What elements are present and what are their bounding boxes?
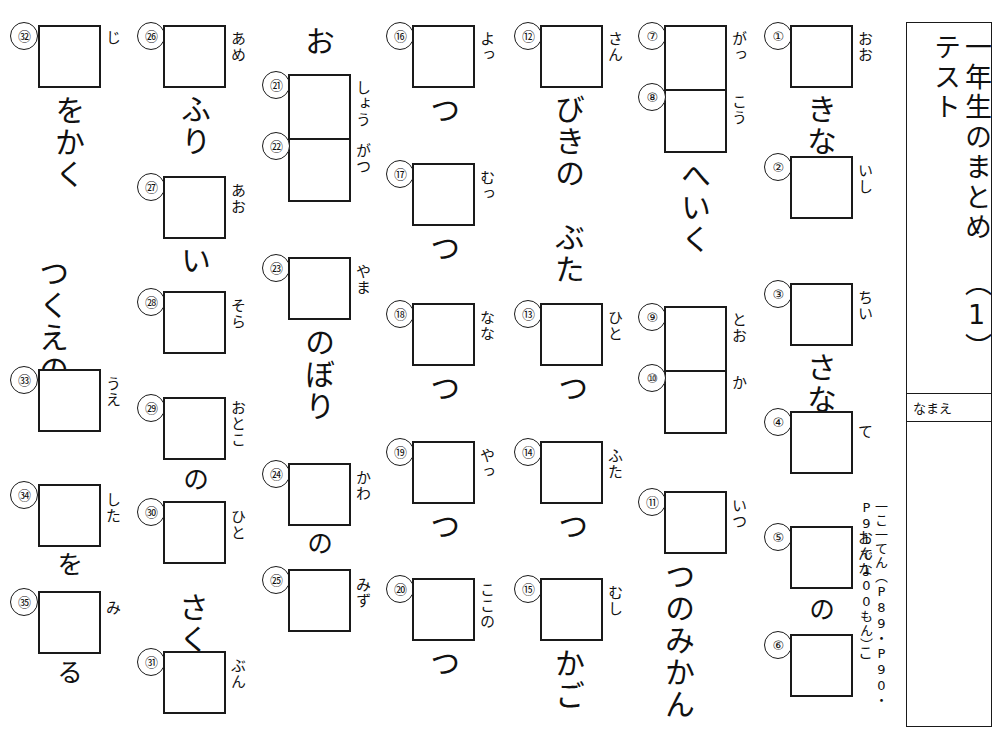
furigana-14: ふた	[606, 448, 622, 490]
question-number-11: ⑪	[638, 488, 666, 516]
answer-box-16[interactable]	[412, 25, 475, 88]
okurigana-19: つ	[425, 511, 459, 547]
okurigana-5: の	[804, 596, 833, 628]
answer-box-18[interactable]	[412, 303, 475, 366]
answer-box-19[interactable]	[412, 441, 475, 504]
answer-box-17[interactable]	[412, 163, 475, 226]
furigana-30: ひと	[229, 509, 245, 551]
answer-box-28[interactable]	[163, 291, 226, 354]
okurigana-13: つ	[553, 373, 587, 409]
question-number-21: ㉑	[262, 71, 290, 99]
title-number: （1）	[907, 269, 991, 363]
okurigana-32: をかく	[50, 95, 84, 215]
answer-box-33[interactable]	[38, 369, 101, 432]
furigana-25: みず	[354, 577, 370, 619]
okurigana-34: を	[52, 551, 81, 583]
furigana-31: ぶん	[229, 658, 245, 700]
furigana-34: した	[104, 492, 120, 534]
answer-box-12[interactable]	[540, 25, 603, 88]
okurigana-35: る	[52, 659, 81, 693]
furigana-9: とお	[730, 312, 746, 354]
title-main: 一年生のまとめテスト	[907, 33, 991, 269]
answer-box-9-10[interactable]	[664, 306, 727, 434]
answer-box-11[interactable]	[664, 491, 727, 554]
question-number-29: ㉙	[137, 394, 165, 422]
answer-box-1[interactable]	[790, 25, 853, 88]
answer-box-30[interactable]	[163, 501, 226, 564]
okurigana-29: の	[178, 466, 207, 498]
answer-box-31[interactable]	[163, 651, 226, 714]
answer-box-4[interactable]	[790, 411, 853, 474]
question-number-8: ⑧	[638, 83, 666, 111]
question-number-26: ㉖	[137, 22, 165, 50]
answer-box-25[interactable]	[288, 569, 351, 632]
question-number-30: ㉚	[137, 498, 165, 526]
furigana-24: かわ	[354, 470, 370, 512]
furigana-19: やっ	[478, 448, 494, 488]
okurigana-18: つ	[425, 373, 459, 409]
okurigana-16: つ	[425, 95, 459, 131]
okurigana-23: のぼり	[300, 327, 334, 431]
question-number-20: ⑳	[386, 575, 414, 603]
box-divider	[290, 138, 349, 140]
answer-box-13[interactable]	[540, 303, 603, 366]
question-number-19: ⑲	[386, 438, 414, 466]
answer-box-26[interactable]	[163, 25, 226, 88]
answer-box-21-22[interactable]	[288, 74, 351, 202]
question-number-34: ㉞	[10, 481, 38, 509]
okurigana-27: い	[176, 245, 210, 281]
okurigana-21-prefix: お	[300, 26, 334, 62]
answer-box-15[interactable]	[540, 578, 603, 641]
question-number-13: ⑬	[514, 300, 542, 328]
question-number-17: ⑰	[386, 160, 414, 188]
okurigana-26: ふり	[176, 94, 210, 164]
answer-box-32[interactable]	[38, 25, 101, 88]
answer-box-34[interactable]	[38, 484, 101, 547]
question-number-27: ㉗	[137, 173, 165, 201]
answer-box-3[interactable]	[790, 283, 853, 346]
furigana-32: じ	[104, 30, 120, 70]
answer-box-14[interactable]	[540, 441, 603, 504]
question-number-23: ㉓	[262, 254, 290, 282]
question-number-5: ⑤	[764, 523, 792, 551]
okurigana-14: つ	[553, 511, 587, 547]
name-rule-bottom	[907, 421, 991, 422]
furigana-21: しょう	[354, 80, 370, 136]
answer-box-29[interactable]	[163, 397, 226, 460]
answer-box-7-8[interactable]	[664, 25, 727, 153]
question-number-4: ④	[764, 408, 792, 436]
furigana-13: ひと	[606, 310, 622, 352]
answer-box-24[interactable]	[288, 463, 351, 526]
furigana-33: うえ	[104, 376, 120, 418]
question-number-3: ③	[764, 280, 792, 308]
answer-box-27[interactable]	[163, 176, 226, 239]
furigana-29: おとこ	[229, 400, 245, 458]
name-rule-top	[907, 393, 991, 394]
furigana-7: がっ	[730, 31, 746, 73]
furigana-22: がつ	[354, 143, 370, 185]
question-number-9: ⑨	[638, 303, 666, 331]
answer-box-5[interactable]	[790, 526, 853, 589]
answer-box-6[interactable]	[790, 634, 853, 697]
okurigana-17: つ	[425, 233, 459, 269]
score-note: 一こ一てん（P89・P90・P91で100もん）	[858, 500, 888, 715]
furigana-23: やま	[354, 264, 370, 306]
question-number-35: ㉟	[10, 588, 38, 616]
question-number-16: ⑯	[386, 22, 414, 50]
title-panel: 一年生のまとめテスト（1） なまえ	[906, 22, 992, 727]
box-divider	[666, 370, 725, 372]
furigana-4: て	[856, 424, 872, 450]
furigana-15: むし	[606, 585, 622, 627]
furigana-1: おお	[856, 31, 872, 73]
okurigana-7: へいく	[676, 160, 710, 264]
question-number-7: ⑦	[638, 22, 666, 50]
furigana-11: いつ	[730, 498, 746, 540]
answer-box-35[interactable]	[38, 591, 101, 654]
okurigana-11: つのみかん	[660, 561, 694, 721]
answer-box-20[interactable]	[412, 578, 475, 641]
question-number-14: ⑭	[514, 438, 542, 466]
answer-box-23[interactable]	[288, 257, 351, 320]
box-divider	[666, 89, 725, 91]
answer-box-2[interactable]	[790, 156, 853, 219]
furigana-12: さん	[606, 31, 622, 73]
